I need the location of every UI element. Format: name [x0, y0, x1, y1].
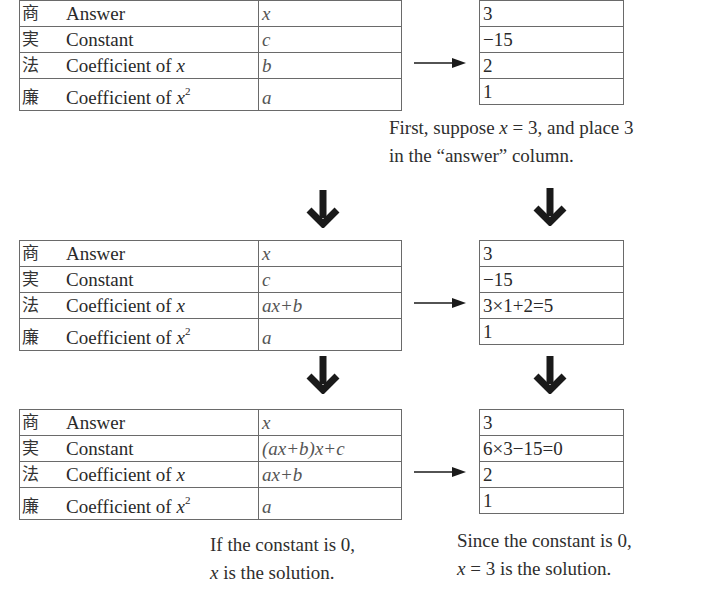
table-row: −15 [480, 27, 624, 53]
table-row-constant: 実 Constant (ax+b)x+c [20, 436, 402, 462]
caption-line-2: x is the solution. [210, 559, 355, 587]
row-label: Coefficient of x2 [54, 488, 259, 520]
label-var: x [176, 327, 184, 348]
table-row-constant: 実 Constant c [20, 267, 402, 293]
row-label: Coefficient of x [54, 293, 259, 319]
label-sup: 2 [185, 85, 191, 97]
cell-answer: 3 [480, 410, 624, 436]
label-text: Coefficient of [66, 464, 176, 485]
cell-constant: −15 [480, 27, 624, 53]
table-row: 1 [480, 79, 624, 105]
table-row: 3 [480, 241, 624, 267]
table-row: 3×1+2=5 [480, 293, 624, 319]
step3-right-caption: Since the constant is 0, x = 3 is the so… [457, 527, 632, 583]
table-row: −15 [480, 267, 624, 293]
step3-left-table: 商 Answer x 実 Constant (ax+b)x+c 法 Coeffi… [19, 409, 402, 520]
caption-line-1: If the constant is 0, [210, 531, 355, 559]
table-row: 6×3−15=0 [480, 436, 624, 462]
row-label: Constant [54, 267, 259, 293]
caption-line-2: in the “answer” column. [389, 142, 634, 170]
caption-var: x [499, 117, 507, 138]
step2-right-table: 3 −15 3×1+2=5 1 [479, 240, 624, 345]
cell-coef-x: 2 [480, 53, 624, 79]
kanji-lian: 廉 [20, 488, 55, 520]
row-label: Coefficient of x2 [54, 79, 259, 111]
table-row: 1 [480, 488, 624, 514]
row-value: x [259, 1, 402, 27]
row-label: Answer [54, 1, 259, 27]
label-var: x [176, 55, 184, 76]
table-row-coef-x: 法 Coefficient of x ax+b [20, 293, 402, 319]
step3-left-caption: If the constant is 0, x is the solution. [210, 531, 355, 587]
row-value: c [259, 267, 402, 293]
right-arrow-icon [414, 297, 466, 309]
kanji-fa: 法 [20, 53, 55, 79]
kanji-shi: 実 [20, 436, 55, 462]
caption-text: = 3, and place 3 [508, 117, 634, 138]
table-row: 3 [480, 1, 624, 27]
step1-caption: First, suppose x = 3, and place 3 in the… [389, 114, 634, 170]
row-value: a [259, 79, 402, 111]
row-label: Constant [54, 27, 259, 53]
step1-right-table: 3 −15 2 1 [479, 0, 624, 105]
caption-text: is the solution. [218, 562, 334, 583]
kanji-shang: 商 [20, 1, 55, 27]
table-row-answer: 商 Answer x [20, 410, 402, 436]
cell-answer: 3 [480, 241, 624, 267]
step1-left-table: 商 Answer x 実 Constant c 法 Coefficient of… [19, 0, 402, 111]
label-var: x [176, 295, 184, 316]
caption-line-2: x = 3 is the solution. [457, 555, 632, 583]
row-label: Coefficient of x [54, 462, 259, 488]
cell-constant: 6×3−15=0 [480, 436, 624, 462]
row-value: c [259, 27, 402, 53]
step2-left-table: 商 Answer x 実 Constant c 法 Coefficient of… [19, 240, 402, 351]
table-row-coef-x2: 廉 Coefficient of x2 a [20, 79, 402, 111]
row-label: Coefficient of x [54, 53, 259, 79]
table-row-constant: 実 Constant c [20, 27, 402, 53]
label-text: Coefficient of [66, 327, 176, 348]
row-value: x [259, 410, 402, 436]
table-row-answer: 商 Answer x [20, 241, 402, 267]
row-value: (ax+b)x+c [259, 436, 402, 462]
row-label: Answer [54, 410, 259, 436]
right-arrow-icon [414, 57, 466, 69]
cell-constant: −15 [480, 267, 624, 293]
kanji-lian: 廉 [20, 319, 55, 351]
table-row: 1 [480, 319, 624, 345]
kanji-fa: 法 [20, 462, 55, 488]
label-sup: 2 [185, 325, 191, 337]
cell-coef-x2: 1 [480, 488, 624, 514]
label-var: x [176, 87, 184, 108]
row-value: ax+b [259, 293, 402, 319]
table-row: 2 [480, 462, 624, 488]
table-row-coef-x: 法 Coefficient of x ax+b [20, 462, 402, 488]
right-arrow-icon [414, 466, 466, 478]
row-label: Answer [54, 241, 259, 267]
caption-line-1: Since the constant is 0, [457, 527, 632, 555]
table-row-coef-x2: 廉 Coefficient of x2 a [20, 488, 402, 520]
kanji-shang: 商 [20, 410, 55, 436]
table-row-answer: 商 Answer x [20, 1, 402, 27]
row-value: a [259, 488, 402, 520]
thick-down-arrow-icon [305, 190, 341, 228]
row-label: Constant [54, 436, 259, 462]
kanji-shang: 商 [20, 241, 55, 267]
thick-down-arrow-icon [532, 188, 568, 226]
label-sup: 2 [185, 494, 191, 506]
label-text: Coefficient of [66, 496, 176, 517]
caption-text: = 3 is the solution. [465, 558, 611, 579]
label-text: Coefficient of [66, 87, 176, 108]
caption-text: First, suppose [389, 117, 499, 138]
table-row-coef-x2: 廉 Coefficient of x2 a [20, 319, 402, 351]
row-label: Coefficient of x2 [54, 319, 259, 351]
row-value: b [259, 53, 402, 79]
thick-down-arrow-icon [532, 356, 568, 394]
cell-coef-x2: 1 [480, 319, 624, 345]
caption-line-1: First, suppose x = 3, and place 3 [389, 114, 634, 142]
row-value: x [259, 241, 402, 267]
kanji-shi: 実 [20, 267, 55, 293]
row-value: a [259, 319, 402, 351]
cell-coef-x: 2 [480, 462, 624, 488]
cell-coef-x2: 1 [480, 79, 624, 105]
table-row-coef-x: 法 Coefficient of x b [20, 53, 402, 79]
